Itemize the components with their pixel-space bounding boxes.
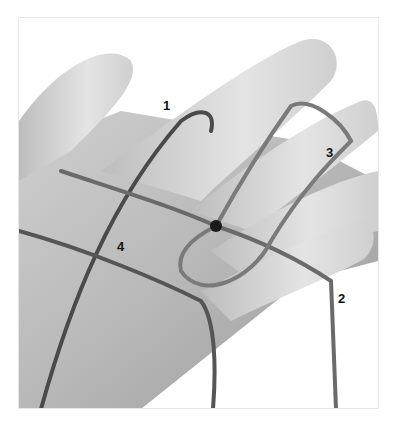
photo-frame (18, 17, 379, 409)
hand-with-cord-photo (19, 18, 378, 408)
cord-label-4: 4 (117, 240, 124, 253)
cord-label-2: 2 (338, 292, 345, 305)
cord-label-1: 1 (163, 99, 170, 112)
cord-label-3: 3 (326, 146, 333, 159)
